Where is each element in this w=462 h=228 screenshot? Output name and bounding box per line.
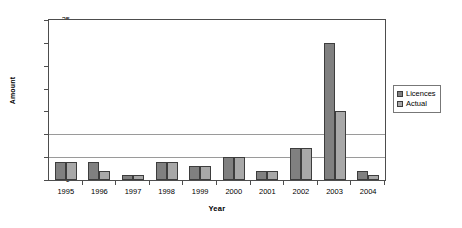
bar-actual-1997[interactable]: [133, 175, 144, 180]
x-axis-tick: [217, 181, 251, 185]
bar-actual-2004[interactable]: [368, 175, 379, 180]
legend-swatch-icon: [397, 91, 403, 97]
bar-group: [150, 20, 184, 180]
x-axis-tick-label: 1997: [116, 187, 150, 196]
bar-actual-2000[interactable]: [234, 157, 245, 180]
bar-licences-1995[interactable]: [55, 162, 66, 180]
x-axis-tick: [351, 181, 385, 185]
x-axis-tick-label: 2000: [217, 187, 251, 196]
bar-actual-2001[interactable]: [267, 171, 278, 180]
bar-licences-2002[interactable]: [290, 148, 301, 180]
bar-group: [318, 20, 352, 180]
bar-group: [217, 20, 251, 180]
bar-actual-1998[interactable]: [167, 162, 178, 180]
legend-item-label: Actual: [406, 99, 427, 109]
bar-group: [183, 20, 217, 180]
bar-group: [116, 20, 150, 180]
bar-licences-1998[interactable]: [156, 162, 167, 180]
legend-item-actual[interactable]: Actual: [397, 99, 436, 109]
bar-licences-2000[interactable]: [223, 157, 234, 180]
bar-licences-1999[interactable]: [189, 166, 200, 180]
bar-actual-1996[interactable]: [99, 171, 110, 180]
bar-actual-1995[interactable]: [66, 162, 77, 180]
chart-legend: LicencesActual: [393, 85, 441, 113]
legend-swatch-icon: [397, 101, 403, 107]
x-axis-tick: [318, 181, 352, 185]
x-axis-tick-label: 1999: [183, 187, 217, 196]
x-axis-tick-label: 2003: [318, 187, 352, 196]
bar-chart: Amount 05101520253035 199519961997199819…: [0, 0, 462, 228]
bar-actual-1999[interactable]: [200, 166, 211, 180]
bar-group: [251, 20, 285, 180]
x-axis-tick: [284, 181, 318, 185]
bar-licences-2001[interactable]: [256, 171, 267, 180]
x-axis-tick: [116, 181, 150, 185]
x-axis-tick: [49, 181, 83, 185]
y-axis-title: Amount: [6, 0, 20, 180]
x-axis-tick-label: 1996: [83, 187, 117, 196]
legend-item-licences[interactable]: Licences: [397, 89, 436, 99]
legend-item-label: Licences: [406, 89, 436, 99]
x-axis-tick: [83, 181, 117, 185]
bar-groups: [49, 20, 385, 180]
x-axis-labels: 1995199619971998199920002001200220032004: [49, 187, 385, 196]
bar-group: [351, 20, 385, 180]
bar-group: [284, 20, 318, 180]
bar-licences-1997[interactable]: [122, 175, 133, 180]
x-axis-title: Year: [49, 204, 385, 213]
bar-actual-2002[interactable]: [301, 148, 312, 180]
x-axis-tick: [150, 181, 184, 185]
x-axis-ticks: [49, 181, 385, 185]
x-axis-tick: [251, 181, 285, 185]
bar-licences-2003[interactable]: [324, 43, 335, 180]
y-axis-title-label: Amount: [10, 76, 17, 104]
x-axis-tick-label: 2001: [251, 187, 285, 196]
x-axis-tick-label: 2004: [351, 187, 385, 196]
bar-group: [49, 20, 83, 180]
x-axis-tick-label: 2002: [284, 187, 318, 196]
x-axis-tick: [183, 181, 217, 185]
bar-actual-2003[interactable]: [335, 111, 346, 180]
x-axis-tick-label: 1995: [49, 187, 83, 196]
bar-licences-1996[interactable]: [88, 162, 99, 180]
bar-licences-2004[interactable]: [357, 171, 368, 180]
x-axis-tick-label: 1998: [150, 187, 184, 196]
bar-group: [83, 20, 117, 180]
